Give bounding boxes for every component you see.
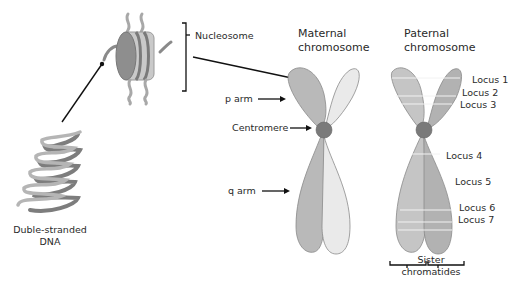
centromere-label: Centromere (232, 122, 288, 134)
paternal-title-line1: Paternal (404, 27, 475, 41)
centromere-arrow (290, 125, 312, 131)
dna-label-line1: Duble-stranded (10, 224, 90, 236)
connector-dot (100, 62, 104, 66)
dna-label-line2: DNA (10, 236, 90, 248)
locus-1-label: Locus 1 (472, 74, 508, 86)
p-arm-arrow (258, 96, 286, 102)
locus-2-label: Locus 2 (462, 87, 498, 99)
maternal-title: Maternal chromosome (298, 27, 369, 55)
nucleosome-icon (104, 14, 171, 104)
paternal-title-line2: chromosome (404, 41, 475, 55)
q-arm-label: q arm (228, 185, 256, 197)
locus-5-label: Locus 5 (455, 176, 491, 188)
q-arm-arrow (262, 188, 290, 194)
p-arm-label: p arm (225, 93, 253, 105)
nucleosome-label: Nucleosome (195, 30, 254, 42)
nucleosome-bracket (182, 23, 186, 91)
nucleosome-pointer-line (193, 57, 301, 80)
maternal-chromosome (288, 68, 359, 254)
sister-chromatides-label: Sister chromatides (396, 254, 466, 278)
paternal-title: Paternal chromosome (404, 27, 475, 55)
sister-label-line1: Sister (396, 254, 466, 266)
locus-6-label: Locus 6 (459, 202, 495, 214)
maternal-title-line2: chromosome (298, 41, 369, 55)
sister-label-line2: chromatides (396, 266, 466, 278)
dna-helix-icon (18, 132, 80, 211)
dna-connector-line (62, 64, 102, 122)
maternal-title-line1: Maternal (298, 27, 369, 41)
locus-3-label: Locus 3 (460, 99, 496, 111)
locus-7-label: Locus 7 (458, 214, 494, 226)
dna-label: Duble-stranded DNA (10, 224, 90, 248)
locus-4-label: Locus 4 (446, 150, 482, 162)
